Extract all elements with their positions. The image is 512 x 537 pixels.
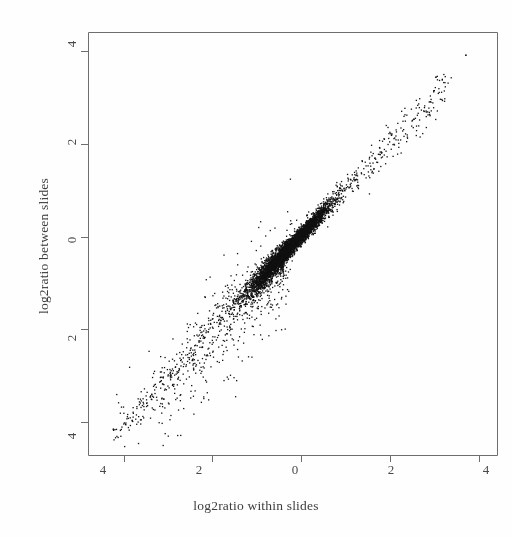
y-tick-label-3: 2 — [64, 335, 80, 342]
y-axis-title: log2ratio between slides — [36, 116, 52, 376]
x-tick-label-3: 2 — [388, 462, 395, 478]
y-tick-label-2: 0 — [64, 237, 80, 244]
x-axis-title: log2ratio within slides — [0, 498, 512, 514]
scatter-plot-figure: log2ratio within slides log2ratio betwee… — [0, 0, 512, 537]
x-tick-label-4: 4 — [483, 462, 490, 478]
scatter-plot-canvas — [0, 0, 512, 537]
x-tick-label-0: 4 — [100, 462, 107, 478]
x-tick-label-2: 0 — [292, 462, 299, 478]
y-tick-label-1: 2 — [64, 139, 80, 146]
y-tick-label-4: 4 — [64, 433, 80, 440]
x-tick-label-1: 2 — [196, 462, 203, 478]
y-tick-label-0: 4 — [64, 41, 80, 48]
